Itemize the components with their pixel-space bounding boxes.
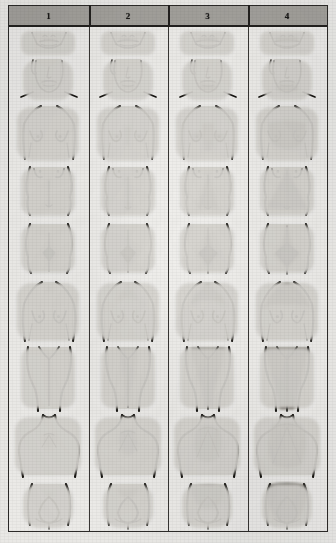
- cell-chest-grade-2: [89, 103, 169, 165]
- cell-buttock-grade-4: [248, 481, 328, 533]
- cell-upper-lip-grade-2: [89, 27, 169, 57]
- cell-upper-lip-grade-1: [9, 27, 89, 57]
- cell-thigh-grade-4: [248, 345, 328, 413]
- cell-chin-grade-3: [168, 57, 248, 103]
- cell-lower-abdomen-grade-4: [248, 221, 328, 279]
- grade-header-3: 3: [168, 6, 248, 25]
- cell-buttock-grade-1: [9, 481, 89, 533]
- cell-thigh-grade-2: [89, 345, 169, 413]
- cell-upper-back-grade-1: [9, 279, 89, 345]
- cell-upper-back-grade-3: [168, 279, 248, 345]
- cell-lower-abdomen-grade-2: [89, 221, 169, 279]
- grade-column-2: [89, 27, 169, 531]
- grade-column-4: [248, 27, 328, 531]
- cell-upper-back-grade-4: [248, 279, 328, 345]
- scanned-figure-page: 1 2 3 4: [0, 0, 336, 543]
- cell-buttock-grade-3: [168, 481, 248, 533]
- cell-chin-grade-2: [89, 57, 169, 103]
- grade-header-2: 2: [89, 6, 169, 25]
- cell-upper-abdomen-grade-1: [9, 165, 89, 221]
- grade-header-4: 4: [248, 6, 328, 25]
- figure-grid: [9, 27, 327, 531]
- cell-thigh-grade-3: [168, 345, 248, 413]
- cell-chest-grade-4: [248, 103, 328, 165]
- cell-upper-lip-grade-4: [248, 27, 328, 57]
- grade-header-row: 1 2 3 4: [9, 6, 327, 27]
- cell-lower-back-shoulder-grade-1: [9, 413, 89, 481]
- cell-chin-grade-4: [248, 57, 328, 103]
- grade-column-1: [9, 27, 89, 531]
- grade-header-1: 1: [9, 6, 89, 25]
- cell-chest-grade-3: [168, 103, 248, 165]
- cell-upper-abdomen-grade-3: [168, 165, 248, 221]
- cell-upper-back-grade-2: [89, 279, 169, 345]
- cell-chin-grade-1: [9, 57, 89, 103]
- cell-upper-lip-grade-3: [168, 27, 248, 57]
- cell-lower-back-shoulder-grade-2: [89, 413, 169, 481]
- cell-buttock-grade-2: [89, 481, 169, 533]
- cell-lower-abdomen-grade-1: [9, 221, 89, 279]
- cell-lower-abdomen-grade-3: [168, 221, 248, 279]
- cell-lower-back-shoulder-grade-3: [168, 413, 248, 481]
- cell-chest-grade-1: [9, 103, 89, 165]
- cell-upper-abdomen-grade-2: [89, 165, 169, 221]
- cell-thigh-grade-1: [9, 345, 89, 413]
- cell-lower-back-shoulder-grade-4: [248, 413, 328, 481]
- grade-column-3: [168, 27, 248, 531]
- chart-frame: 1 2 3 4: [8, 5, 328, 532]
- cell-upper-abdomen-grade-4: [248, 165, 328, 221]
